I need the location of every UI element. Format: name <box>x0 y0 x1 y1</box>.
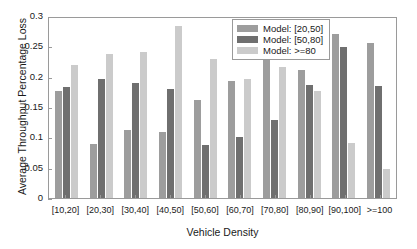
bar <box>314 91 321 198</box>
y-tick-label: 0.1 <box>3 131 43 142</box>
bar <box>140 52 147 198</box>
bar <box>202 145 209 198</box>
x-tick-mark <box>205 195 206 199</box>
bar-group <box>188 18 223 198</box>
y-tick-label: 0.05 <box>3 162 43 173</box>
x-tick-mark <box>310 195 311 199</box>
bar <box>71 65 78 198</box>
bar <box>263 59 270 198</box>
bar <box>106 54 113 198</box>
legend-label: Model: [50,80] <box>263 34 323 45</box>
legend-item: Model: [20,50] <box>237 23 323 34</box>
x-tick-label: [70,80] <box>261 205 289 215</box>
bar <box>167 89 174 198</box>
y-tick-label: 0.25 <box>3 40 43 51</box>
legend-swatch <box>237 25 258 32</box>
bar <box>210 59 217 198</box>
x-tick-mark <box>65 195 66 199</box>
x-axis-label: Vehicle Density <box>48 226 397 238</box>
y-tick-mark <box>48 78 52 79</box>
y-tick-mark <box>48 199 52 200</box>
y-tick-mark <box>48 47 52 48</box>
y-tick-label: 0.2 <box>3 71 43 82</box>
bar <box>236 137 243 198</box>
y-tick-label: 0 <box>3 192 43 203</box>
bar <box>375 86 382 198</box>
x-tick-mark <box>380 195 381 199</box>
bar <box>348 143 355 198</box>
x-tick-label: [20,30] <box>87 205 115 215</box>
x-tick-label: >=100 <box>367 205 393 215</box>
bar-groups-container <box>49 18 396 198</box>
x-tick-label: [90,100] <box>328 205 361 215</box>
chart-legend: Model: [20,50]Model: [50,80]Model: >=80 <box>232 19 330 60</box>
bar-group <box>153 18 188 198</box>
legend-label: Model: [20,50] <box>263 23 323 34</box>
bar-group <box>84 18 119 198</box>
x-tick-mark <box>135 195 136 199</box>
x-tick-mark <box>240 195 241 199</box>
bar <box>298 70 305 198</box>
bar <box>340 47 347 198</box>
bar-group <box>118 18 153 198</box>
plot-area <box>48 17 397 199</box>
x-tick-mark <box>170 195 171 199</box>
x-tick-label: [50,60] <box>191 205 219 215</box>
legend-swatch <box>237 36 258 43</box>
y-tick-mark <box>48 169 52 170</box>
bar <box>132 83 139 198</box>
bar <box>383 169 390 198</box>
legend-swatch <box>237 47 258 54</box>
bar <box>228 81 235 198</box>
x-tick-mark <box>345 195 346 199</box>
x-tick-label: [10,20] <box>52 205 80 215</box>
bar <box>98 79 105 199</box>
bar <box>306 85 313 198</box>
y-tick-mark <box>48 138 52 139</box>
bar <box>90 144 97 198</box>
x-tick-label: [30,40] <box>121 205 149 215</box>
bar <box>271 120 278 198</box>
bar <box>159 132 166 198</box>
bar <box>175 26 182 198</box>
bar <box>63 87 70 198</box>
bar-group <box>327 18 362 198</box>
legend-item: Model: >=80 <box>237 45 323 56</box>
x-tick-mark <box>100 195 101 199</box>
bar <box>194 100 201 198</box>
x-tick-label: [80,90] <box>296 205 324 215</box>
legend-item: Model: [50,80] <box>237 34 323 45</box>
y-tick-label: 0.15 <box>3 101 43 112</box>
bar <box>244 79 251 199</box>
bar <box>124 130 131 198</box>
bar-chart-figure: Average Throughput Percentage Loss 00.05… <box>0 0 417 249</box>
legend-label: Model: >=80 <box>263 45 316 56</box>
bar-group <box>361 18 396 198</box>
bar <box>55 91 62 198</box>
x-tick-label: [40,50] <box>156 205 184 215</box>
bar <box>367 43 374 198</box>
x-tick-mark <box>275 195 276 199</box>
x-tick-label: [60,70] <box>226 205 254 215</box>
bar-group <box>49 18 84 198</box>
y-tick-label: 0.3 <box>3 10 43 21</box>
bar <box>332 34 339 198</box>
y-tick-mark <box>48 17 52 18</box>
bar <box>279 67 286 198</box>
y-tick-mark <box>48 108 52 109</box>
